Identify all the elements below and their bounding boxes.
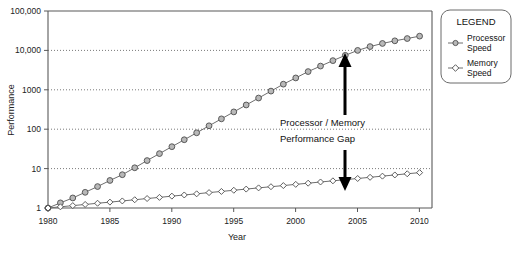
data-point-memory — [181, 192, 187, 198]
data-point-processor — [318, 63, 324, 69]
data-point-processor — [219, 116, 225, 122]
y-axis-title: Performance — [6, 84, 16, 136]
y-tick-label-1: 1 — [36, 203, 41, 213]
performance-gap-annotation: Processor / Memory Performance Gap — [280, 53, 365, 191]
arrow-up-shaft — [344, 62, 347, 115]
data-point-memory — [169, 193, 175, 199]
data-point-memory — [318, 179, 324, 185]
data-point-memory — [417, 170, 423, 176]
data-point-processor — [107, 178, 113, 184]
data-point-processor — [157, 151, 163, 157]
x-tick-label-1985: 1985 — [100, 216, 119, 226]
data-point-processor — [243, 102, 249, 108]
data-point-memory — [293, 181, 299, 187]
data-point-memory — [268, 184, 274, 190]
data-point-memory — [144, 196, 150, 202]
chart-figure: 100,000 10,000 1000 100 10 1 Performance… — [0, 0, 517, 253]
data-point-processor — [392, 38, 398, 44]
arrow-down-head — [339, 177, 352, 191]
plot-frame — [48, 11, 432, 208]
x-tick-label-2000: 2000 — [286, 216, 305, 226]
series-memory-speed — [45, 170, 423, 211]
x-tick-label-1990: 1990 — [162, 216, 181, 226]
data-point-memory — [280, 183, 286, 189]
gap-label-line2: Performance Gap — [280, 133, 355, 144]
x-axis-title: Year — [228, 232, 246, 242]
data-point-memory — [367, 174, 373, 180]
data-point-memory — [218, 188, 224, 194]
y-tickmarks — [44, 11, 48, 208]
data-point-memory — [256, 185, 262, 191]
y-tick-label-100000: 100,000 — [10, 6, 41, 16]
legend-title: LEGEND — [456, 16, 495, 27]
data-point-processor — [380, 41, 386, 47]
legend-processor-marker-icon — [453, 40, 458, 45]
data-point-processor — [194, 130, 200, 136]
data-point-processor — [231, 109, 237, 115]
legend-memory-label-line1: Memory — [467, 58, 498, 68]
gap-label-line1: Processor / Memory — [280, 117, 365, 128]
data-point-processor — [268, 88, 274, 94]
x-tickmarks — [48, 208, 419, 212]
data-point-memory — [392, 172, 398, 178]
gap-arrow-up — [339, 53, 352, 115]
data-point-processor — [70, 195, 76, 201]
legend-memory-label-line2: Speed — [467, 68, 492, 78]
y-tick-label-10: 10 — [32, 164, 42, 174]
data-point-processor — [417, 33, 423, 39]
data-point-memory — [82, 201, 88, 207]
data-point-memory — [119, 198, 125, 204]
data-point-processor — [119, 172, 125, 178]
data-point-memory — [206, 190, 212, 196]
legend-processor-label-line1: Processor — [467, 33, 505, 43]
data-point-memory — [404, 171, 410, 177]
x-tick-label-1995: 1995 — [224, 216, 243, 226]
x-tick-labels: 1980 1985 1990 1995 2000 2005 2010 — [39, 216, 430, 226]
arrow-up-head — [339, 53, 352, 67]
legend[interactable]: LEGEND Processor Speed Memory Speed — [441, 10, 511, 83]
data-point-processor — [206, 123, 212, 129]
gap-arrow-down — [339, 150, 352, 191]
data-point-memory — [355, 175, 361, 181]
data-point-processor — [404, 36, 410, 42]
performance-gap-chart: 100,000 10,000 1000 100 10 1 Performance… — [0, 0, 517, 253]
y-tick-label-1000: 1000 — [22, 85, 41, 95]
y-tick-label-100: 100 — [27, 124, 41, 134]
data-point-processor — [355, 48, 361, 54]
y-gridlines — [48, 50, 432, 168]
x-tick-label-2005: 2005 — [348, 216, 367, 226]
y-tick-label-10000: 10,000 — [15, 45, 41, 55]
data-point-processor — [305, 69, 311, 75]
data-point-memory — [132, 197, 138, 203]
data-point-processor — [367, 44, 373, 50]
x-tick-label-1980: 1980 — [39, 216, 58, 226]
data-point-processor — [82, 189, 88, 195]
series-processor-speed — [45, 33, 422, 211]
data-point-memory — [305, 180, 311, 186]
data-point-memory — [379, 173, 385, 179]
data-point-memory — [194, 191, 200, 197]
data-point-processor — [132, 165, 138, 171]
data-point-memory — [107, 199, 113, 205]
data-point-memory — [231, 187, 237, 193]
data-point-processor — [144, 158, 150, 164]
legend-processor-label-line2: Speed — [467, 43, 492, 53]
data-point-memory — [156, 194, 162, 200]
data-point-processor — [181, 137, 187, 143]
data-point-processor — [330, 58, 336, 64]
data-series-layer — [45, 33, 423, 211]
data-point-processor — [169, 144, 175, 150]
data-point-memory — [243, 186, 249, 192]
x-tick-label-2010: 2010 — [410, 216, 429, 226]
data-point-processor — [256, 95, 262, 101]
data-point-processor — [280, 81, 286, 87]
data-point-memory — [330, 178, 336, 184]
data-point-memory — [95, 200, 101, 206]
data-point-processor — [95, 184, 101, 190]
data-point-processor — [293, 75, 299, 81]
